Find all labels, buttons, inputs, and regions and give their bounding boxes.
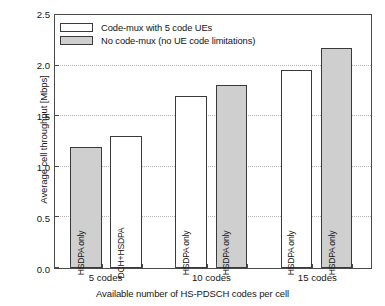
bar-label: HSDPA only (286, 231, 296, 276)
x-tick-mark (102, 264, 103, 268)
bar-label: HSDPA only (221, 231, 231, 276)
bar: HSDPA only (70, 147, 102, 268)
y-tick-mark (55, 115, 59, 116)
x-tick-mark (70, 264, 71, 268)
y-tick-label: 0.0 (10, 264, 50, 275)
y-tick-mark (55, 14, 59, 15)
legend-label: Code-mux with 5 code UEs (101, 22, 212, 33)
legend-label: No code-mux (no UE code limitations) (101, 35, 255, 46)
x-tick-mark (175, 264, 176, 268)
y-tick-label: 1.0 (10, 162, 50, 173)
y-tick-label: 1.5 (10, 111, 50, 122)
x-tick-mark (207, 264, 208, 268)
x-tick-mark (216, 264, 217, 268)
bar-label: HSDPA only (181, 231, 191, 276)
bar: HSDPA only (175, 96, 207, 268)
x-tick-mark (281, 264, 282, 268)
x-tick-mark (312, 264, 313, 268)
plot-area: HSDPA onlyDCH+HSDPAHSDPA onlyHSDPA onlyH… (54, 14, 372, 269)
x-tick-label: 10 codes (166, 272, 256, 283)
legend: Code-mux with 5 code UEs No code-mux (no… (60, 20, 255, 47)
y-tick-label: 2.0 (10, 60, 50, 71)
legend-swatch-gray (60, 36, 93, 45)
x-axis-title: Available number of HS-PDSCH codes per c… (0, 288, 385, 299)
y-axis-title: Average cell throughput [Mbps] (38, 10, 49, 270)
legend-item: No code-mux (no UE code limitations) (60, 34, 255, 47)
y-tick-label: 2.5 (10, 9, 50, 20)
bar-label: HSDPA only (76, 231, 86, 276)
y-tick-mark (55, 267, 59, 268)
x-tick-mark (110, 264, 111, 268)
x-tick-mark (352, 264, 353, 268)
legend-item: Code-mux with 5 code UEs (60, 21, 255, 34)
legend-swatch-white (60, 23, 93, 32)
x-tick-label: 5 codes (61, 272, 151, 283)
y-tick-mark (55, 166, 59, 167)
x-tick-mark (321, 264, 322, 268)
y-tick-mark (55, 216, 59, 217)
x-tick-mark (247, 264, 248, 268)
chart-figure: Average cell throughput [Mbps] 0.00.51.0… (0, 0, 385, 306)
y-tick-mark (55, 65, 59, 66)
x-tick-mark (142, 264, 143, 268)
bar-label: HSDPA only (327, 231, 337, 276)
y-tick-label: 0.5 (10, 213, 50, 224)
bar: HSDPA only (216, 85, 248, 268)
bar: HSDPA only (281, 70, 313, 268)
bar: HSDPA only (321, 48, 353, 268)
bar-label: DCH+HSDPA (116, 228, 126, 279)
bar: DCH+HSDPA (110, 136, 142, 268)
x-tick-label: 15 codes (272, 272, 362, 283)
